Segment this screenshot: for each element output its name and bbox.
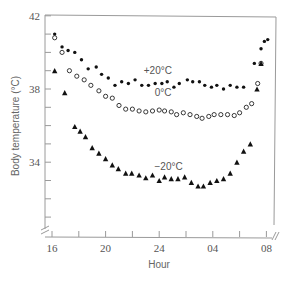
x-axis-ticks: 1620240408 [47, 231, 273, 254]
open-circle-marker [53, 36, 57, 40]
filled-dot-marker [140, 84, 143, 87]
x-axis [45, 237, 272, 238]
filled-dot-marker [222, 87, 225, 90]
triangle-marker [77, 128, 82, 133]
triangle-marker [182, 174, 187, 179]
triangle-marker [150, 172, 155, 177]
open-circle-marker [137, 109, 141, 113]
filled-dot-marker [259, 47, 262, 50]
triangle-marker [221, 176, 226, 181]
triangle-marker [103, 156, 108, 161]
filled-dot-marker [253, 62, 256, 65]
filled-dot-marker [66, 49, 69, 52]
open-circle-marker [75, 74, 79, 78]
triangle-marker [195, 183, 200, 188]
open-circle-marker [175, 113, 179, 117]
open-circle-marker [157, 108, 161, 112]
triangle-marker [123, 171, 128, 176]
y-axis-title: Body temperature (°C) [10, 76, 21, 176]
filled-dot-marker [198, 80, 201, 83]
y-tick-label: 34 [29, 156, 41, 168]
open-circle-marker [212, 113, 216, 117]
series-labels: +20°C0°C−20°C [144, 65, 183, 171]
filled-dot-marker [178, 82, 181, 85]
open-circle-marker [169, 110, 173, 114]
series-open-circle [53, 36, 264, 121]
open-circle-marker [256, 81, 260, 85]
filled-dot-marker [95, 65, 98, 68]
filled-dot-marker [127, 82, 130, 85]
open-circle-marker [232, 113, 236, 117]
triangle-marker [248, 141, 253, 146]
plot-frame [41, 15, 279, 240]
x-tick-label: 24 [154, 242, 166, 254]
filled-dot-marker [186, 78, 189, 81]
filled-dot-marker [113, 84, 116, 87]
filled-dot-marker [160, 82, 163, 85]
filled-dot-marker [191, 80, 194, 83]
open-circle-marker [225, 113, 229, 117]
filled-dot-marker [266, 38, 269, 41]
filled-dot-marker [203, 84, 206, 87]
triangle-marker [157, 178, 162, 183]
open-circle-marker [250, 102, 254, 106]
open-circle-marker [244, 105, 248, 109]
triangle-marker [143, 175, 148, 180]
series-label: −20°C [154, 161, 182, 172]
filled-dot-marker [80, 58, 83, 61]
y-axis-ticks: 423834 [29, 10, 51, 217]
triangle-marker [72, 124, 77, 129]
triangle-marker [110, 162, 115, 167]
open-circle-marker [200, 116, 204, 120]
filled-dot-marker [153, 82, 156, 85]
triangle-marker [234, 160, 239, 165]
triangle-marker [207, 180, 212, 185]
filled-dot-marker [172, 85, 175, 88]
open-circle-marker [238, 111, 242, 115]
open-circle-marker [67, 69, 71, 73]
triangle-marker [214, 178, 219, 183]
open-circle-marker [117, 103, 121, 107]
filled-dot-marker [242, 85, 245, 88]
filled-dot-marker [133, 78, 136, 81]
triangle-marker [96, 150, 101, 155]
triangle-marker [241, 149, 246, 154]
triangle-marker [136, 172, 141, 177]
x-axis-title: Hour [148, 259, 170, 270]
triangle-marker [129, 171, 134, 176]
x-tick-label: 20 [100, 242, 112, 254]
triangle-marker [52, 68, 57, 73]
open-circle-marker [181, 111, 185, 115]
x-tick-label: 08 [261, 242, 273, 254]
filled-dot-marker [100, 73, 103, 76]
y-tick-label: 42 [29, 10, 40, 22]
open-circle-marker [219, 113, 223, 117]
filled-dot-marker [229, 84, 232, 87]
filled-dot-marker [210, 85, 213, 88]
triangle-marker [189, 180, 194, 185]
open-circle-marker [188, 113, 192, 117]
filled-dot-marker [147, 84, 150, 87]
open-circle-marker [60, 50, 64, 54]
triangle-marker [62, 90, 67, 95]
triangle-marker [116, 166, 121, 171]
triangle-marker [169, 176, 174, 181]
open-circle-marker [97, 89, 101, 93]
open-circle-marker [89, 83, 93, 87]
triangle-marker [228, 171, 233, 176]
filled-dot-marker [60, 45, 63, 48]
y-tick-label: 38 [29, 83, 41, 95]
triangle-marker [90, 145, 95, 150]
filled-dot-marker [263, 40, 266, 43]
series-label: +20°C [144, 65, 172, 76]
chart: 423834 1620240408 Body temperature (°C) … [0, 0, 294, 282]
open-circle-marker [124, 107, 128, 111]
x-tick-label: 16 [47, 242, 59, 254]
open-circle-marker [207, 114, 211, 118]
open-circle-marker [144, 110, 148, 114]
filled-dot-marker [215, 84, 218, 87]
filled-dot-marker [235, 85, 238, 88]
triangle-marker [175, 176, 180, 181]
triangle-marker [201, 183, 206, 188]
open-circle-marker [104, 94, 108, 98]
